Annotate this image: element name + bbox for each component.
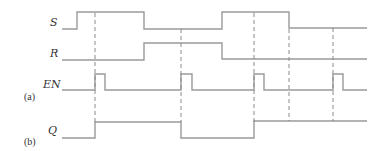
- waveform-r: [62, 43, 367, 60]
- part-label-a: (a): [24, 91, 35, 103]
- waveform-q: [62, 121, 367, 138]
- signal-label-q: Q: [48, 124, 57, 137]
- signal-label-s: S: [50, 16, 58, 29]
- part-label-b: (b): [24, 136, 36, 148]
- signal-label-r: R: [49, 47, 58, 60]
- waveform-en: [62, 74, 367, 90]
- waveform-s: [62, 12, 367, 29]
- timing-diagram: S R EN Q (a) (b): [0, 0, 384, 151]
- signal-label-en: EN: [42, 78, 61, 91]
